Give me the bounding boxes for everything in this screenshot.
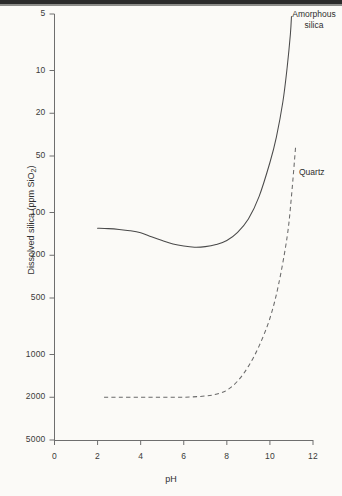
y-axis-tick-label: 10 [0, 65, 46, 75]
y-axis-tick-label: 20 [0, 107, 46, 117]
y-axis-ticks [50, 14, 55, 440]
series-line-quartz [104, 145, 296, 398]
x-axis-tick-label: 8 [212, 451, 242, 461]
x-axis-tick-label: 6 [169, 451, 199, 461]
y-axis-tick-label: 500 [0, 292, 46, 302]
figure-dissolved-silica-vs-ph: 5000200010005002001005020105 024681012 D… [0, 0, 342, 496]
y-axis-tick-label: 200 [0, 249, 46, 259]
y-axis-tick-label: 50 [0, 150, 46, 160]
x-axis-tick-label: 4 [126, 451, 156, 461]
x-axis-tick-label: 10 [255, 451, 285, 461]
y-axis-title-main: Dissolved silica (ppm SiO [26, 172, 36, 274]
x-axis-title: pH [0, 474, 342, 484]
y-axis-tick-label: 5000 [0, 434, 46, 444]
axis-lines [54, 14, 313, 441]
y-axis-title-subscript: 2 [30, 169, 37, 173]
x-axis-tick-label: 12 [298, 451, 328, 461]
y-axis-tick-label: 5 [0, 8, 46, 18]
y-axis-title: Dissolved silica (ppm SiO2) [26, 140, 36, 300]
series-label-quartz: Quartz [299, 167, 325, 178]
y-axis-tick-label: 1000 [0, 349, 46, 359]
y-axis-tick-label: 2000 [0, 391, 46, 401]
x-axis-tick-label: 0 [40, 451, 70, 461]
series-label-amorphous-silica: Amorphous silica [288, 9, 340, 31]
y-axis-tick-label: 100 [0, 207, 46, 217]
series-line-amorphous-silica [98, 17, 292, 248]
plot-canvas [0, 0, 342, 496]
x-axis-tick-label: 2 [83, 451, 113, 461]
